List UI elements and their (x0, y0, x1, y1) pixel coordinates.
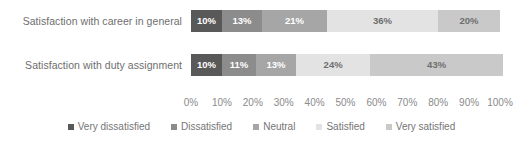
plot-area: 10%13%21%36%20% 10%11%13%24%43% (191, 0, 500, 90)
bar-segment-value: 13% (266, 60, 285, 70)
bar-segment-value: 24% (324, 60, 343, 70)
bar-segment-value: 10% (197, 16, 216, 26)
x-tick-label: 10% (212, 97, 232, 108)
legend-item[interactable]: Very satisfied (386, 122, 455, 132)
x-tick-label: 50% (335, 97, 355, 108)
legend-item[interactable]: Neutral (253, 122, 295, 132)
legend-swatch-icon (386, 124, 392, 130)
bar-segment: 21% (262, 10, 327, 32)
x-tick-label: 80% (428, 97, 448, 108)
legend-item[interactable]: Dissatisfied (171, 122, 232, 132)
x-tick-label: 30% (274, 97, 294, 108)
bar-segment: 20% (438, 10, 500, 32)
bar-segment: 10% (191, 10, 222, 32)
legend-swatch-icon (253, 124, 259, 130)
legend-item-label: Very dissatisfied (78, 122, 150, 132)
category-label-text: Satisfaction with duty assignment (0, 59, 182, 71)
category-label-text: Satisfaction with career in general (0, 15, 182, 27)
bar-segment: 13% (222, 10, 262, 32)
bar-segment-value: 20% (460, 16, 479, 26)
category-label-duty: Satisfaction with duty assignment (0, 54, 182, 76)
bar-segment-value: 43% (427, 60, 446, 70)
category-label-career: Satisfaction with career in general (0, 10, 182, 32)
bar-segment-value: 21% (285, 16, 304, 26)
legend-item[interactable]: Satisfied (316, 122, 364, 132)
chart-legend: Very dissatisfiedDissatisfiedNeutralSati… (0, 122, 523, 132)
legend-item-label: Dissatisfied (181, 122, 232, 132)
x-axis-ticks: 0%10%20%30%40%50%60%70%80%90%100% (191, 97, 500, 113)
legend-swatch-icon (316, 124, 322, 130)
legend-swatch-icon (68, 124, 74, 130)
stacked-bar-chart: Satisfaction with career in general Sati… (0, 0, 523, 147)
legend-swatch-icon (171, 124, 177, 130)
bar-segment-value: 36% (373, 16, 392, 26)
bar-segment: 10% (191, 54, 222, 76)
x-tick-label: 70% (397, 97, 417, 108)
x-tick-label: 0% (184, 97, 198, 108)
bar-segment-value: 11% (230, 60, 249, 70)
legend-item[interactable]: Very dissatisfied (68, 122, 150, 132)
bar-row: 10%13%21%36%20% (191, 10, 500, 32)
bar-segment: 43% (370, 54, 503, 76)
legend-item-label: Satisfied (326, 122, 364, 132)
x-tick-label: 60% (366, 97, 386, 108)
legend-item-label: Very satisfied (396, 122, 455, 132)
bar-segment: 11% (222, 54, 256, 76)
x-tick-label: 20% (243, 97, 263, 108)
x-tick-label: 40% (305, 97, 325, 108)
bar-segment: 24% (296, 54, 370, 76)
bar-segment: 13% (256, 54, 296, 76)
legend-item-label: Neutral (263, 122, 295, 132)
bar-segment: 36% (327, 10, 438, 32)
x-tick-label: 100% (487, 97, 513, 108)
bar-segment-value: 13% (232, 16, 251, 26)
x-tick-label: 90% (459, 97, 479, 108)
bar-segment-value: 10% (197, 60, 216, 70)
bar-row: 10%11%13%24%43% (191, 54, 500, 76)
